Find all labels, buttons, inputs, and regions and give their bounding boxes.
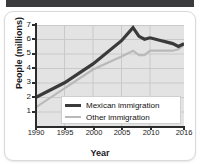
legend-label-other: Other immigration: [86, 113, 150, 122]
x-tick-2010: 2010: [138, 128, 164, 137]
y-tickmark-4: [32, 67, 36, 69]
legend-item-mexican-immigration: Mexican immigration: [65, 99, 177, 111]
y-tickmark-1: [32, 111, 36, 113]
x-tick-2000: 2000: [81, 128, 107, 137]
x-tick-1995: 1995: [52, 128, 78, 137]
line-chart: People (millions) Year 7 6 5 4 3 2 1: [5, 12, 195, 160]
y-tick-5: 5: [15, 48, 31, 57]
x-tick-1990: 1990: [23, 128, 49, 137]
y-tickmark-7: [32, 24, 36, 26]
page-header-text: [6, 0, 194, 7]
y-tick-1: 1: [15, 106, 31, 115]
y-tickmark-6: [32, 38, 36, 40]
y-tick-6: 6: [15, 34, 31, 43]
x-axis-label: Year: [5, 148, 195, 158]
legend-swatch-other-icon: [65, 116, 81, 118]
legend-item-other-immigration: Other immigration: [65, 111, 177, 123]
x-tick-2016: 2016: [171, 128, 197, 137]
chart-card: People (millions) Year 7 6 5 4 3 2 1: [4, 11, 196, 161]
chart-legend: Mexican immigration Other immigration: [61, 96, 181, 124]
y-tickmark-5: [32, 53, 36, 55]
page-header-strip: [6, 0, 194, 7]
legend-label-mexican: Mexican immigration: [86, 101, 159, 110]
y-tickmark-3: [32, 82, 36, 84]
screenshot-root: People (millions) Year 7 6 5 4 3 2 1: [0, 0, 200, 164]
x-tick-2005: 2005: [109, 128, 135, 137]
legend-swatch-mexican-icon: [65, 104, 81, 107]
y-tick-2: 2: [15, 92, 31, 101]
y-tickmark-2: [32, 96, 36, 98]
y-tick-4: 4: [15, 63, 31, 72]
y-tick-7: 7: [15, 20, 31, 29]
y-tick-3: 3: [15, 77, 31, 86]
